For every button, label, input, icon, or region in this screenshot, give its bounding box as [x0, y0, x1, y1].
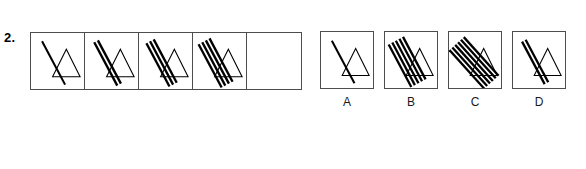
option-c-label: C [448, 96, 502, 108]
option-d[interactable]: D [512, 31, 566, 108]
option-c-figure [449, 32, 501, 88]
option-a-label: A [320, 96, 374, 108]
option-d-label: D [512, 96, 566, 108]
sequence-cell-4 [193, 33, 247, 89]
sequence-cell-3 [139, 33, 193, 89]
sequence-cell-1 [31, 33, 85, 89]
sequence-cell-1-figure [31, 33, 84, 89]
sequence-cell-3-slash-2-icon [150, 41, 173, 84]
puzzle-container: 2. A B C D [0, 0, 586, 169]
sequence-cell-3-triangle-icon [161, 49, 188, 76]
option-c-slash-6-icon [464, 37, 499, 76]
option-a-triangle-icon [342, 48, 369, 75]
sequence-strip [30, 32, 302, 90]
option-d-slash-1-icon [522, 42, 545, 85]
option-b-box[interactable] [384, 31, 438, 89]
option-c-slash-5-icon [461, 40, 496, 79]
question-number: 2. [4, 30, 15, 45]
sequence-cell-1-triangle-icon [53, 49, 80, 76]
option-a[interactable]: A [320, 31, 374, 108]
sequence-cell-2-figure [85, 33, 138, 89]
sequence-cell-4-figure [193, 33, 246, 89]
sequence-cell-5-empty-answer-slot[interactable] [247, 33, 301, 89]
option-a-figure [321, 32, 373, 88]
sequence-cell-3-figure [139, 33, 192, 89]
option-a-box[interactable] [320, 31, 374, 89]
option-b-figure [385, 32, 437, 88]
option-d-figure [513, 32, 565, 88]
sequence-cell-2-slash-1-icon [94, 42, 117, 85]
option-d-box[interactable] [512, 31, 566, 89]
option-c-slash-2-icon [452, 47, 487, 86]
option-b[interactable]: B [384, 31, 438, 108]
sequence-cell-2 [85, 33, 139, 89]
option-b-label: B [384, 96, 438, 108]
option-a-slash-1-icon [332, 41, 355, 84]
option-c[interactable]: C [448, 31, 502, 108]
option-c-box[interactable] [448, 31, 502, 89]
sequence-cell-1-slash-1-icon [42, 41, 65, 84]
